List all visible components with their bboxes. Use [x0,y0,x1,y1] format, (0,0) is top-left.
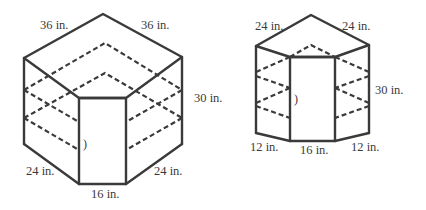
label-bottom-left: 24 in. [26,164,54,178]
label-bottom-front: 16 in. [300,143,328,157]
label-height: 30 in. [375,83,403,97]
label-height: 30 in. [194,91,222,105]
door-handle-mark: ) [83,137,87,151]
label-top-left: 36 in. [40,18,68,32]
label-top-right: 24 in. [342,19,370,33]
door-handle-mark: ) [294,92,298,106]
small-corner-cabinet: ) 24 in. 24 in. 30 in. 12 in. 16 in. 12 … [250,15,403,157]
large-corner-cabinet: ) 36 in. 36 in. 30 in. 24 in. 16 in. 24 … [24,14,222,201]
label-bottom-left: 12 in. [250,140,278,154]
cabinet-diagrams: ) 36 in. 36 in. 30 in. 24 in. 16 in. 24 … [0,0,426,210]
label-bottom-front: 16 in. [91,187,119,201]
hidden-shelf-lines [24,43,182,150]
label-bottom-right: 12 in. [351,140,379,154]
label-top-left: 24 in. [255,19,283,33]
label-top-right: 36 in. [141,18,169,32]
label-bottom-right: 24 in. [154,164,182,178]
